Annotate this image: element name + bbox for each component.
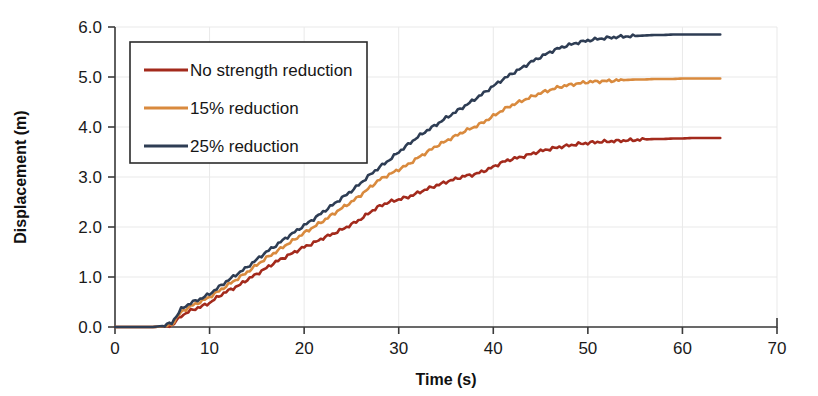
y-axis-tick-labels: 0.01.02.03.04.05.06.0 <box>78 18 102 337</box>
x-tick-label: 20 <box>295 339 314 358</box>
y-tick-label: 4.0 <box>78 118 102 137</box>
legend: No strength reduction15% reduction25% re… <box>130 42 367 163</box>
y-tick-label: 1.0 <box>78 268 102 287</box>
y-tick-label: 0.0 <box>78 318 102 337</box>
x-axis-title: Time (s) <box>415 371 476 388</box>
y-tick-label: 6.0 <box>78 18 102 37</box>
chart-container: 010203040506070 0.01.02.03.04.05.06.0 Ti… <box>0 0 818 396</box>
legend-label-2: 15% reduction <box>190 99 299 118</box>
x-tick-label: 40 <box>484 339 503 358</box>
x-tick-label: 70 <box>768 339 787 358</box>
legend-label-1: No strength reduction <box>190 61 353 80</box>
x-tick-label: 10 <box>200 339 219 358</box>
legend-label-3: 25% reduction <box>190 137 299 156</box>
x-tick-label: 0 <box>110 339 119 358</box>
y-tick-label: 3.0 <box>78 168 102 187</box>
x-tick-label: 50 <box>578 339 597 358</box>
y-axis-title: Displacement (m) <box>12 110 29 243</box>
x-axis-tick-labels: 010203040506070 <box>110 339 786 358</box>
y-tick-label: 5.0 <box>78 68 102 87</box>
line-chart: 010203040506070 0.01.02.03.04.05.06.0 Ti… <box>0 0 818 396</box>
x-tick-label: 30 <box>389 339 408 358</box>
x-tick-label: 60 <box>673 339 692 358</box>
y-tick-label: 2.0 <box>78 218 102 237</box>
